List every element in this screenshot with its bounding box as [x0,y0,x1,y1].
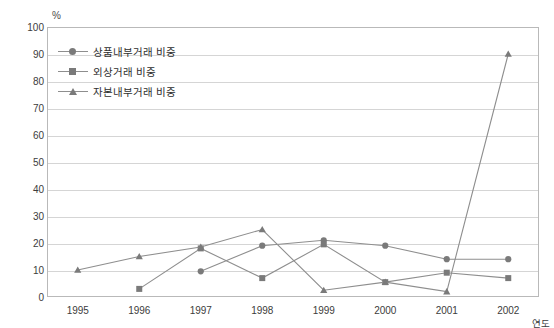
chart-legend: 상품내부거래 비중외상거래 비중자본내부거래 비중 [58,44,176,99]
line-chart: % 0102030405060708090100 199519961997199… [0,0,554,328]
legend-label: 상품내부거래 비중 [93,44,176,59]
x-axis-tick-label: 1996 [128,305,150,316]
gridline [48,109,538,110]
y-axis-tick-label: 100 [4,22,44,33]
gridline [48,217,538,218]
legend-circle-marker-icon [58,46,88,57]
y-axis-tick-label: 60 [4,130,44,141]
x-axis-tick-label: 1998 [251,305,273,316]
y-axis-tick-label: 90 [4,49,44,60]
y-axis-unit-label: % [52,10,61,21]
gridline [48,190,538,191]
legend-item: 상품내부거래 비중 [58,44,176,59]
gridline [48,244,538,245]
x-axis-title: 연도 [532,316,550,328]
legend-item: 자본내부거래 비중 [58,84,176,99]
legend-triangle-marker-icon [58,86,88,97]
y-axis-tick-label: 0 [4,292,44,303]
x-axis-tick-label: 2002 [497,305,519,316]
x-axis-tick-label: 1997 [190,305,212,316]
gridline [48,136,538,137]
y-axis-tick-label: 40 [4,184,44,195]
x-axis-tick-label: 2000 [374,305,396,316]
legend-label: 외상거래 비중 [93,64,156,79]
y-axis-tick-label: 70 [4,103,44,114]
y-axis-tick-label: 80 [4,76,44,87]
x-axis-tick-label: 1999 [313,305,335,316]
legend-label: 자본내부거래 비중 [93,84,176,99]
y-axis-tick-label: 50 [4,157,44,168]
gridline [48,271,538,272]
y-axis-tick-labels: 0102030405060708090100 [0,0,44,328]
x-axis-tick-label: 1995 [67,305,89,316]
gridline [48,163,538,164]
legend-item: 외상거래 비중 [58,64,176,79]
legend-square-marker-icon [58,66,88,77]
y-axis-tick-label: 10 [4,265,44,276]
y-axis-tick-label: 20 [4,238,44,249]
y-axis-tick-label: 30 [4,211,44,222]
x-axis-tick-label: 2001 [436,305,458,316]
